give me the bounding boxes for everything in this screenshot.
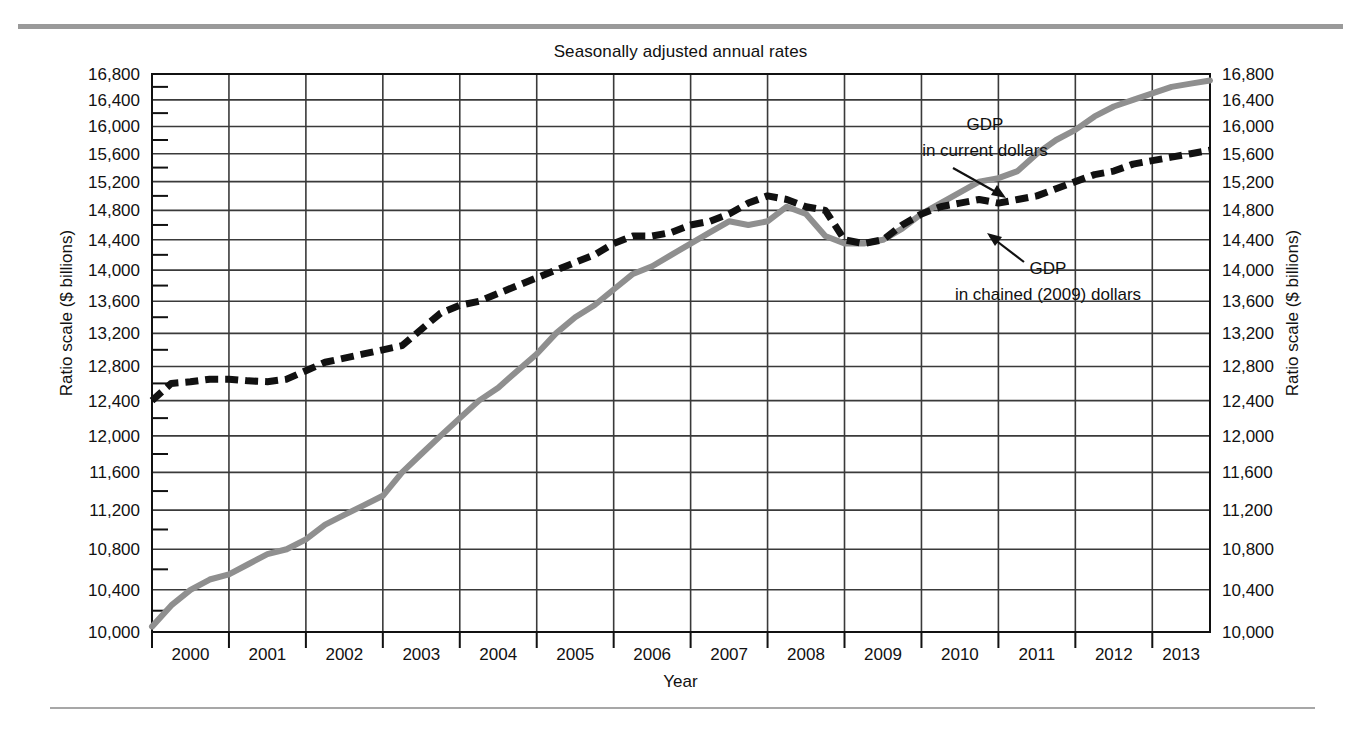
svg-text:12,800: 12,800: [1222, 357, 1274, 376]
svg-text:16,800: 16,800: [88, 65, 140, 84]
svg-text:13,200: 13,200: [1222, 324, 1274, 343]
svg-text:13,600: 13,600: [88, 292, 140, 311]
svg-text:10,000: 10,000: [1222, 623, 1274, 642]
svg-text:12,800: 12,800: [88, 357, 140, 376]
svg-text:2002: 2002: [325, 645, 363, 664]
svg-text:2004: 2004: [479, 645, 517, 664]
svg-text:2010: 2010: [941, 645, 979, 664]
svg-text:2008: 2008: [787, 645, 825, 664]
plot-area: 10,00010,40010,80011,20011,60012,00012,4…: [0, 0, 1361, 737]
svg-text:12,000: 12,000: [1222, 427, 1274, 446]
svg-text:13,600: 13,600: [1222, 292, 1274, 311]
svg-text:16,400: 16,400: [88, 91, 140, 110]
annotation-gdp-chained-dollars: GDP in chained (2009) dollars: [955, 233, 1141, 304]
svg-text:2011: 2011: [1019, 645, 1056, 664]
svg-text:15,600: 15,600: [1222, 145, 1274, 164]
svg-text:2013: 2013: [1162, 645, 1200, 664]
x-tick-labels: 2000200120022003200420052006200720082009…: [172, 645, 1201, 664]
svg-text:16,400: 16,400: [1222, 91, 1274, 110]
y-tick-labels-right: 10,00010,40010,80011,20011,60012,00012,4…: [1222, 65, 1274, 642]
svg-text:2006: 2006: [633, 645, 671, 664]
svg-text:11,600: 11,600: [1222, 463, 1273, 482]
svg-text:15,600: 15,600: [88, 145, 140, 164]
svg-text:10,400: 10,400: [88, 581, 140, 600]
svg-text:14,000: 14,000: [1222, 261, 1274, 280]
minor-ticks-left: [152, 87, 168, 611]
grid-horizontal: [152, 74, 1210, 632]
svg-text:14,800: 14,800: [1222, 201, 1274, 220]
svg-text:10,800: 10,800: [88, 540, 140, 559]
gdp-chart-figure: Seasonally adjusted annual rates Ratio s…: [0, 0, 1361, 737]
svg-text:13,200: 13,200: [88, 324, 140, 343]
svg-text:12,400: 12,400: [1222, 392, 1274, 411]
plot-svg: 10,00010,40010,80011,20011,60012,00012,4…: [0, 0, 1361, 737]
annotation-gdp-current-dollars: GDP in current dollars: [922, 115, 1048, 198]
svg-text:2003: 2003: [402, 645, 440, 664]
plot-frame-border: [152, 74, 1210, 632]
svg-text:15,200: 15,200: [1222, 173, 1274, 192]
y-tick-labels-left: 10,00010,40010,80011,20011,60012,00012,4…: [88, 65, 140, 642]
svg-text:11,600: 11,600: [89, 463, 140, 482]
svg-text:11,200: 11,200: [89, 501, 140, 520]
svg-text:2005: 2005: [556, 645, 594, 664]
svg-text:14,000: 14,000: [88, 261, 140, 280]
series-line-gdp-current-dollars: [152, 80, 1210, 626]
svg-text:2000: 2000: [172, 645, 210, 664]
svg-text:2009: 2009: [864, 645, 902, 664]
svg-text:11,200: 11,200: [1222, 501, 1273, 520]
svg-text:14,800: 14,800: [88, 201, 140, 220]
svg-text:16,000: 16,000: [1222, 117, 1274, 136]
svg-text:16,800: 16,800: [1222, 65, 1274, 84]
svg-text:2001: 2001: [249, 645, 287, 664]
svg-text:12,000: 12,000: [88, 427, 140, 446]
annotation-chained-line2: in chained (2009) dollars: [955, 285, 1141, 304]
annotation-current-line2: in current dollars: [922, 141, 1048, 160]
svg-text:10,400: 10,400: [1222, 581, 1274, 600]
bottom-divider-rule: [50, 707, 1315, 709]
svg-text:12,400: 12,400: [88, 392, 140, 411]
svg-text:16,000: 16,000: [88, 117, 140, 136]
svg-text:2007: 2007: [710, 645, 748, 664]
svg-text:10,000: 10,000: [88, 623, 140, 642]
svg-text:10,800: 10,800: [1222, 540, 1274, 559]
svg-text:2012: 2012: [1095, 645, 1133, 664]
annotation-current-line1: GDP: [967, 115, 1004, 134]
annotation-chained-line1: GDP: [1030, 259, 1067, 278]
svg-text:15,200: 15,200: [88, 173, 140, 192]
svg-text:14,400: 14,400: [1222, 231, 1274, 250]
svg-text:14,400: 14,400: [88, 231, 140, 250]
